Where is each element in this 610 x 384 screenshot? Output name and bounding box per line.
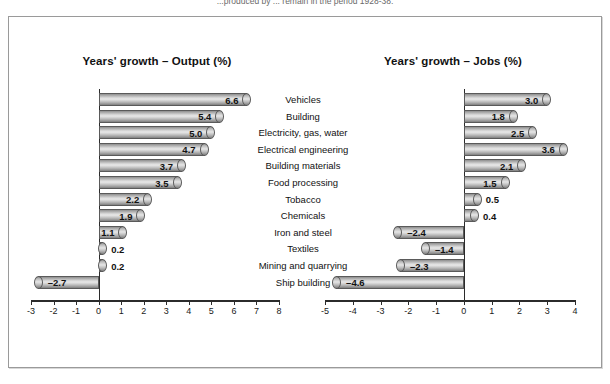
axis-tick-label: -2 [404,306,412,316]
bar-end-cap-icon [396,259,405,272]
category-label: Electrical engineering [228,143,378,156]
bar-value-label: 2.5 [511,127,524,140]
axis-tick [325,300,326,305]
category-label: Building [228,110,378,123]
axis-tick [256,300,257,305]
bar-value-label: 3.0 [525,94,538,107]
bar-output-2[interactable]: 5.0 [99,126,212,139]
bar-jobs-2[interactable]: 2.5 [464,126,533,139]
bar-value-label: 5.0 [189,127,202,140]
bar-jobs-3[interactable]: 3.6 [464,143,564,156]
bar-jobs-0[interactable]: 3.0 [464,93,547,106]
bar-value-label: 0.5 [486,193,499,206]
axis-tick-label: -5 [321,306,329,316]
bar-value-label: 3.5 [155,177,168,190]
figure-caption: ...produced by ... remain in the period … [0,0,610,8]
bar-output-6[interactable]: 2.2 [99,193,149,206]
bar-value-label: 1.1 [101,226,114,239]
bar-output-11[interactable]: –2.7 [38,276,99,289]
axis-tick [189,300,190,305]
bar-value-label: 0.2 [111,243,124,256]
category-label: Electricity, gas, water [228,126,378,139]
bar-end-cap-icon [215,110,224,123]
axis-tick [436,300,437,305]
bar-end-cap-icon [542,93,551,106]
bar-output-4[interactable]: 3.7 [99,159,182,172]
bar-end-cap-icon [501,176,510,189]
bar-output-0[interactable]: 6.6 [99,93,248,106]
axis-tick [76,300,77,305]
bar-end-cap-icon [393,226,402,239]
axis-tick [381,300,382,305]
bar-value-label: –1.4 [435,243,454,256]
axis-tick-label: 0 [461,306,466,316]
bar-jobs-6[interactable]: 0.5 [464,193,478,206]
axis-tick-label: 4 [186,306,191,316]
chart-title-output: Years' growth – Output (%) [9,55,305,67]
bar-end-cap-icon [421,242,430,255]
axis-tick [519,300,520,305]
jobs-x-axis: -5-4-3-2-101234 [325,300,575,301]
axis-tick [279,300,280,305]
axis-tick-label: 1 [119,306,124,316]
category-label: Vehicles [228,93,378,106]
bar-output-10[interactable]: 0.2 [99,259,104,272]
bar-end-cap-icon [470,209,479,222]
axis-tick [99,300,100,305]
bar-jobs-8[interactable]: –2.4 [397,226,464,239]
bar-end-cap-icon [177,159,186,172]
category-label: Tobacco [228,193,378,206]
bar-end-cap-icon [206,126,215,139]
bar-end-cap-icon [509,110,518,123]
bar-jobs-4[interactable]: 2.1 [464,159,522,172]
bar-value-label: 3.7 [160,160,173,173]
bar-value-label: 2.1 [500,160,513,173]
bar-end-cap-icon [34,276,43,289]
bar-end-cap-icon [517,159,526,172]
bar-jobs-9[interactable]: –1.4 [425,242,464,255]
bar-end-cap-icon [200,143,209,156]
bar-output-9[interactable]: 0.2 [99,242,104,255]
axis-tick-label: -3 [377,306,385,316]
axis-tick-label: 5 [209,306,214,316]
bar-end-cap-icon [473,193,482,206]
category-label: Chemicals [228,209,378,222]
bar-end-cap-icon [98,242,107,255]
bar-value-label: 1.9 [119,210,132,223]
bar-jobs-5[interactable]: 1.5 [464,176,506,189]
axis-tick [121,300,122,305]
axis-tick-label: 2 [141,306,146,316]
axis-tick [575,300,576,305]
bar-output-5[interactable]: 3.5 [99,176,178,189]
bar-jobs-7[interactable]: 0.4 [464,209,475,222]
category-label: Mining and quarrying [228,259,378,272]
category-label: Iron and steel [228,226,378,239]
axis-tick-label: 4 [572,306,577,316]
bar-output-8[interactable]: 1.1 [99,226,124,239]
category-label: Ship building [228,276,378,289]
bar-end-cap-icon [98,259,107,272]
bar-end-cap-icon [528,126,537,139]
bar-output-3[interactable]: 4.7 [99,143,205,156]
axis-tick [54,300,55,305]
bar-value-label: 5.4 [198,110,211,123]
axis-tick [144,300,145,305]
axis-tick-label: 2 [517,306,522,316]
axis-tick-label: 8 [276,306,281,316]
bar-output-1[interactable]: 5.4 [99,110,221,123]
axis-tick [353,300,354,305]
bar-output-7[interactable]: 1.9 [99,209,142,222]
chart-title-jobs: Years' growth – Jobs (%) [305,55,601,67]
bar-value-label: 1.8 [492,110,505,123]
bar-end-cap-icon [173,176,182,189]
axis-line [31,300,279,302]
bar-value-label: 0.4 [483,210,496,223]
bar-jobs-1[interactable]: 1.8 [464,110,514,123]
bar-value-label: 3.6 [542,143,555,156]
axis-tick-label: 1 [489,306,494,316]
axis-line [325,300,575,302]
axis-tick [408,300,409,305]
axis-tick [211,300,212,305]
bar-jobs-10[interactable]: –2.3 [400,259,464,272]
bar-value-label: 1.5 [483,177,496,190]
